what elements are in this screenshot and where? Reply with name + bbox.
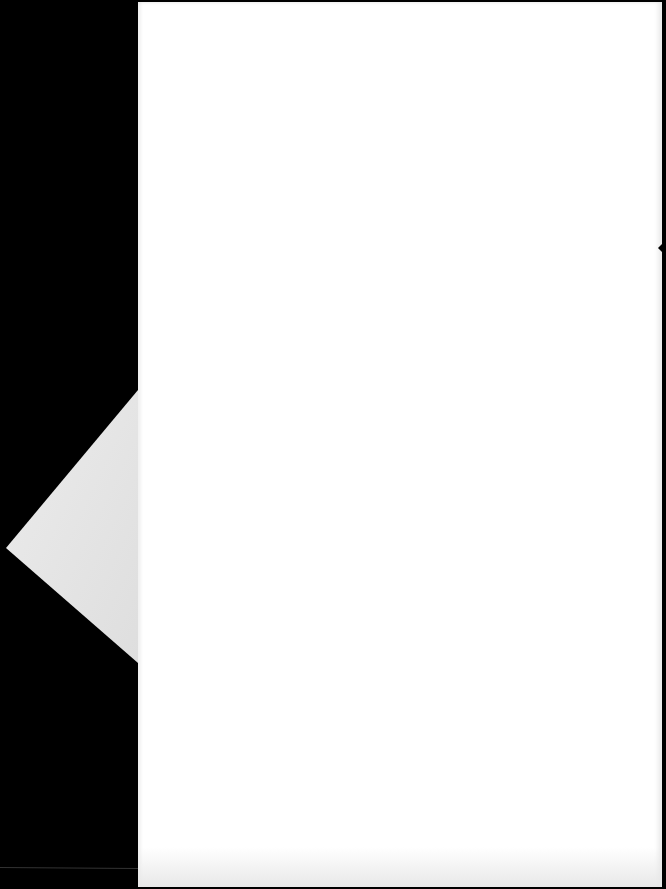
scan-scene: [0, 0, 666, 889]
page-bottom-shadow: [138, 847, 662, 887]
right-border: [662, 0, 666, 889]
edge-notch-mark: [658, 242, 664, 254]
blank-page: [138, 2, 662, 887]
